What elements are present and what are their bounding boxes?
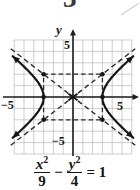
y-tick-neg5: −5: [52, 135, 65, 147]
fraction-numerator: y2: [67, 156, 83, 172]
marked-point-dot: [100, 118, 105, 123]
y-tick-5: 5: [64, 39, 70, 51]
fraction-denominator: 4: [67, 172, 83, 189]
x-tick-5: 5: [117, 100, 123, 112]
marked-point-dot: [100, 72, 105, 77]
fraction-y-squared-over-4: y2 4: [67, 156, 83, 189]
minus-operator: −: [54, 165, 63, 180]
x-axis-arrowhead: [133, 94, 140, 100]
marked-point-dot: [100, 95, 105, 100]
equals-one: = 1: [86, 165, 106, 180]
y-axis-arrowhead: [70, 29, 76, 36]
marked-point-dot: [41, 72, 46, 77]
fraction-numerator: x2: [34, 156, 51, 172]
fraction-x-squared-over-9: x2 9: [34, 156, 51, 189]
scan-artifact-line: [121, 3, 139, 15]
y-axis-label: y: [56, 23, 62, 36]
plot-layer: [3, 29, 139, 156]
marked-point-dot: [41, 95, 46, 100]
fraction-denominator: 9: [34, 172, 50, 189]
marked-point-dot: [41, 118, 46, 123]
x-tick-neg5: −5: [1, 99, 14, 111]
hyperbola-equation: x2 9 − y2 4 = 1: [0, 156, 140, 189]
